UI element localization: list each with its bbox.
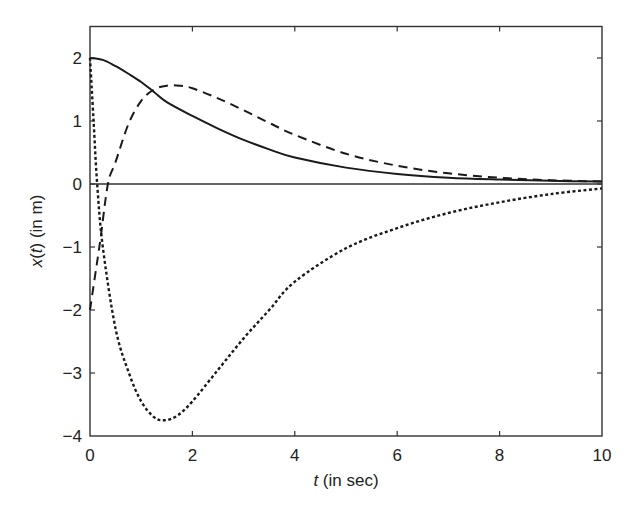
- y-tick-label: −1: [63, 238, 82, 257]
- y-axis-label: x(t) (in m): [27, 195, 46, 269]
- x-tick-label: 6: [392, 446, 401, 465]
- y-tick-label: −4: [63, 427, 82, 446]
- y-tick-label: −3: [63, 364, 82, 383]
- x-tick-label: 10: [593, 446, 612, 465]
- y-tick-label: 2: [73, 49, 82, 68]
- x-tick-label: 0: [85, 446, 94, 465]
- plot-frame: [90, 27, 602, 437]
- series-solid: [90, 58, 602, 181]
- y-tick-label: 1: [73, 112, 82, 131]
- x-tick-label: 2: [188, 446, 197, 465]
- x-axis-label: t (in sec): [313, 471, 378, 490]
- x-tick-label: 4: [290, 446, 299, 465]
- axis-ticks: 0246810210−1−2−3−4: [63, 27, 612, 466]
- series-dotted: [90, 58, 602, 420]
- data-series: [90, 58, 602, 420]
- y-tick-label: −2: [63, 301, 82, 320]
- x-tick-label: 8: [495, 446, 504, 465]
- y-tick-label: 0: [73, 175, 82, 194]
- line-chart: 0246810210−1−2−3−4 t (in sec) x(t) (in m…: [0, 0, 633, 522]
